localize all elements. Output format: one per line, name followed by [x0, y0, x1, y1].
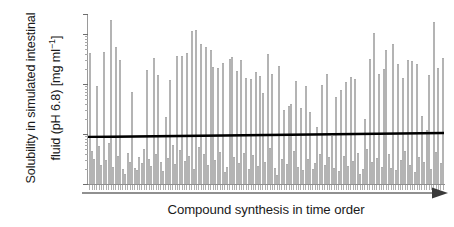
bar — [428, 75, 430, 184]
y-axis-title-line-2-suffix: ] — [49, 36, 63, 39]
bar — [411, 61, 413, 184]
plot-area — [88, 14, 444, 184]
bar — [442, 58, 444, 184]
time-order-arrow-icon — [80, 186, 452, 200]
bar — [110, 20, 112, 184]
solubility-bar-chart-figure: Solubility in simulated intestinal fluid… — [0, 0, 454, 227]
bar — [191, 31, 193, 184]
bar — [205, 47, 207, 184]
x-axis-title: Compound synthesis in time order — [88, 202, 444, 217]
bar — [222, 63, 224, 184]
y-axis-title-line-2-text: fluid (pH 6.8) [mg ml — [49, 49, 63, 160]
bar — [392, 44, 394, 184]
y-axis-title: Solubility in simulated intestinal fluid… — [0, 0, 46, 196]
y-axis-unit-exponent: −1 — [47, 39, 57, 49]
bar — [119, 60, 121, 184]
